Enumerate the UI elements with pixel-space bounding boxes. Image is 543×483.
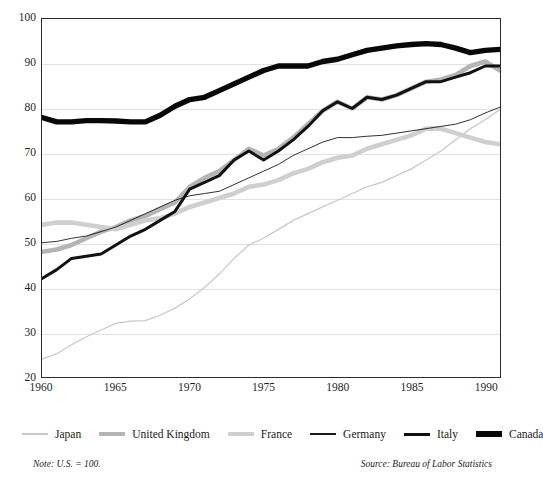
- legend-label: Japan: [55, 428, 81, 440]
- series-line-italy: [42, 66, 500, 279]
- legend-item-united-kingdom[interactable]: United Kingdom: [99, 428, 210, 440]
- x-tick-1965: 1965: [104, 381, 127, 393]
- y-tick-90: 90: [2, 57, 36, 68]
- line-swatch-japan: [22, 433, 48, 435]
- x-axis-labels: 1960196519701975198019851990: [41, 381, 501, 399]
- note-text: Note: U.S. = 100.: [33, 459, 101, 469]
- legend-item-italy[interactable]: Italy: [404, 428, 458, 440]
- series-line-japan: [42, 109, 500, 359]
- y-tick-50: 50: [2, 237, 36, 248]
- x-tick-1975: 1975: [252, 381, 275, 393]
- x-tick-1960: 1960: [30, 381, 53, 393]
- legend-label: France: [261, 428, 292, 440]
- series-layer: [42, 19, 500, 377]
- legend-label: Italy: [437, 428, 458, 440]
- y-tick-70: 70: [2, 147, 36, 158]
- legend-label: Canada: [509, 428, 543, 440]
- legend-item-france[interactable]: France: [228, 428, 292, 440]
- legend-item-germany[interactable]: Germany: [310, 428, 386, 440]
- y-tick-100: 100: [2, 12, 36, 23]
- series-line-germany: [42, 107, 500, 243]
- legend-item-japan[interactable]: Japan: [22, 428, 81, 440]
- line-swatch-canada: [476, 431, 502, 436]
- y-axis-labels: 1009080706050403020: [0, 18, 36, 378]
- y-tick-40: 40: [2, 282, 36, 293]
- x-tick-1980: 1980: [326, 381, 349, 393]
- legend-label: Germany: [343, 428, 386, 440]
- x-tick-1970: 1970: [178, 381, 201, 393]
- y-tick-60: 60: [2, 192, 36, 203]
- line-swatch-italy: [404, 433, 430, 436]
- chart-legend: JapanUnited KingdomFranceGermanyItalyCan…: [22, 424, 502, 444]
- line-swatch-united-kingdom: [99, 432, 125, 437]
- source-text: Source: Bureau of Labor Statistics: [361, 459, 492, 469]
- legend-label: United Kingdom: [132, 428, 210, 440]
- x-tick-1990: 1990: [475, 381, 498, 393]
- line-swatch-france: [228, 432, 254, 437]
- y-tick-80: 80: [2, 102, 36, 113]
- legend-item-canada[interactable]: Canada: [476, 428, 543, 440]
- plot-area: [41, 18, 501, 378]
- x-tick-1985: 1985: [401, 381, 424, 393]
- y-tick-30: 30: [2, 327, 36, 338]
- chart-title: [0, 0, 519, 4]
- line-swatch-germany: [310, 433, 336, 435]
- series-line-france: [42, 129, 500, 230]
